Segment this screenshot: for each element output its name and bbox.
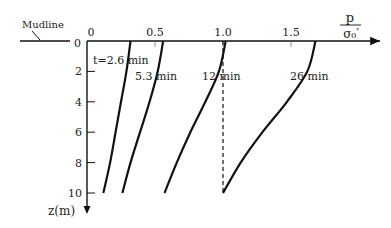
y-tick-label: 10 [68, 187, 82, 200]
series-curve [223, 41, 315, 193]
y-tick-label: 4 [75, 96, 82, 109]
series-label: t=2.6 min [93, 54, 149, 67]
series-label: 12 min [202, 70, 241, 83]
x-tick-label: 0 [88, 26, 95, 39]
x-tick-label: 1.0 [214, 26, 232, 39]
mudline-label: Mudline [22, 19, 64, 30]
series-labels: t=2.6 min5.3 min12 min26 min [93, 54, 329, 83]
y-tick-label: 2 [75, 65, 82, 78]
mudline-leader [32, 31, 40, 40]
y-axis-label: z(m) [48, 204, 75, 218]
x-tick-label: 0.5 [146, 26, 164, 39]
y-tick-label: 8 [75, 157, 82, 170]
y-tick-label: 6 [75, 126, 82, 139]
x-axis-label-denominator: σ₀′ [343, 27, 359, 41]
x-axis-label-numerator: p [346, 10, 354, 25]
origin-label: 0 [74, 37, 81, 50]
chart: Mudline 00.51.01.5 246810 0 p σ₀′ z(m) t… [0, 0, 391, 228]
series-label: 5.3 min [135, 70, 177, 83]
series-curve [165, 41, 226, 193]
x-tick-label: 1.5 [282, 26, 300, 39]
y-axis-arrow-icon [84, 206, 91, 214]
x-tick-labels: 00.51.01.5 [88, 26, 300, 47]
y-ticks: 246810 [68, 65, 95, 200]
series-label: 26 min [290, 70, 329, 83]
